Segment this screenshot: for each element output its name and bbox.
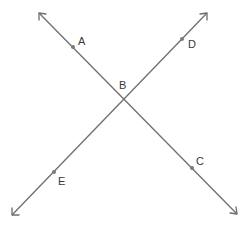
point-e (52, 170, 56, 174)
point-c (190, 166, 194, 170)
line-de (12, 13, 207, 215)
label-b: B (119, 79, 126, 91)
label-a: A (78, 35, 86, 47)
point-a (71, 45, 75, 49)
label-d: D (188, 38, 196, 50)
line-ac (39, 13, 237, 214)
point-d (180, 37, 184, 41)
intersecting-lines-diagram: A B C D E (0, 0, 251, 227)
label-c: C (196, 155, 204, 167)
label-e: E (58, 175, 65, 187)
